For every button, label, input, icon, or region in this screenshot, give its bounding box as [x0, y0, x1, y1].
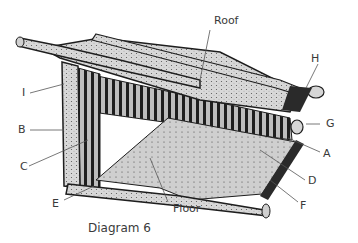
label-g: G	[326, 118, 335, 129]
label-roof: Roof	[214, 15, 238, 26]
diagram-caption: Diagram 6	[88, 222, 151, 234]
label-d: D	[308, 175, 316, 186]
label-h: H	[311, 53, 319, 64]
shelter-diagram: Roof H I B G C A D E F Floor Diagram 6	[0, 0, 358, 243]
label-f: F	[300, 200, 306, 211]
left-post	[62, 62, 80, 188]
label-b: B	[18, 124, 26, 135]
label-c: C	[20, 161, 28, 172]
label-e: E	[52, 198, 59, 209]
label-i: I	[22, 87, 25, 98]
label-floor: Floor	[173, 203, 200, 214]
label-a: A	[323, 148, 331, 159]
